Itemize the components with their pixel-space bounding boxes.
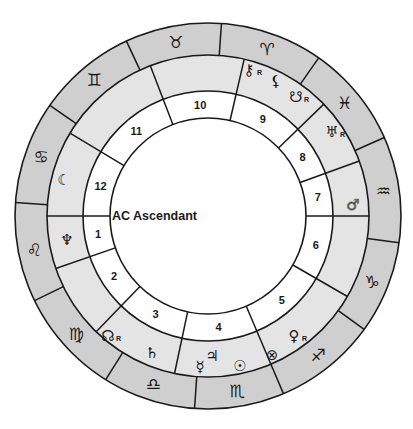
sun-placement: ☉︎ — [233, 357, 246, 375]
libra-sign-icon: ♎︎ — [146, 374, 161, 394]
scorpio-sign-icon: ♏︎ — [230, 381, 245, 401]
astrology-chart: ♉︎♊︎♋︎♌︎♍︎♎︎♏︎♐︎♑︎♒︎♓︎♈︎ 123456789101112… — [0, 0, 413, 429]
house-number-2: 2 — [111, 270, 117, 282]
retrograde-marker: R — [340, 131, 345, 138]
cancer-sign-icon: ♋︎ — [34, 147, 49, 167]
mercury-placement: ☿︎ — [195, 358, 204, 376]
part-of-fortune-icon: ⊗︎ — [266, 346, 279, 364]
moon-icon: ☾︎ — [57, 171, 70, 189]
house-number-7: 7 — [315, 191, 321, 203]
jupiter-icon: ♃︎ — [205, 347, 218, 365]
aquarius-sign-icon: ♒︎ — [376, 181, 391, 201]
jupiter-placement: ♃︎ — [205, 347, 218, 365]
mercury-icon: ☿︎ — [195, 358, 204, 376]
natal-chart-wheel: ♉︎♊︎♋︎♌︎♍︎♎︎♏︎♐︎♑︎♒︎♓︎♈︎ 123456789101112… — [0, 0, 413, 429]
moon-placement: ☾︎ — [57, 171, 70, 189]
retrograde-marker: R — [257, 69, 262, 76]
lilith-icon: ⚸︎ — [271, 72, 282, 90]
house-number-5: 5 — [279, 294, 285, 306]
house-number-3: 3 — [153, 308, 159, 320]
retrograde-marker: R — [302, 335, 307, 342]
leo-sign-icon: ♌︎ — [27, 240, 42, 260]
ascendant-marker: AC Ascendant — [112, 209, 198, 223]
neptune-icon: ♆︎ — [60, 231, 73, 249]
house-number-4: 4 — [216, 321, 223, 333]
north-node-icon: ☊︎ — [101, 327, 114, 345]
venus-icon: ♀︎ — [289, 327, 300, 345]
ascendant-label: AC Ascendant — [112, 209, 198, 223]
house-number-11: 11 — [131, 125, 143, 137]
pisces-sign-icon: ♓︎ — [337, 93, 352, 113]
gemini-sign-icon: ♊︎ — [87, 70, 102, 90]
part-of-fortune-placement: ⊗︎ — [266, 346, 279, 364]
virgo-sign-icon: ♍︎ — [69, 324, 84, 344]
lilith-placement: ⚸︎ — [271, 72, 282, 90]
house-number-6: 6 — [313, 239, 319, 251]
retrograde-marker: R — [116, 335, 121, 342]
mars-placement: ♂︎ — [346, 196, 359, 214]
house-number-8: 8 — [299, 151, 305, 163]
saturn-icon: ♄︎ — [145, 344, 158, 362]
house-number-10: 10 — [194, 99, 206, 111]
taurus-sign-icon: ♉︎ — [168, 32, 183, 52]
uranus-icon: ♅︎ — [325, 123, 338, 141]
neptune-placement: ♆︎ — [60, 231, 73, 249]
sagittarius-sign-icon: ♐︎ — [311, 345, 326, 365]
sun-icon: ☉︎ — [233, 357, 246, 375]
south-node-icon: ☋︎ — [289, 88, 302, 106]
saturn-placement: ♄︎ — [145, 344, 158, 362]
retrograde-marker: R — [304, 96, 309, 103]
chiron-icon: ⚷︎ — [244, 61, 255, 79]
house-number-9: 9 — [260, 113, 266, 125]
mars-icon: ♂︎ — [346, 196, 359, 214]
capricorn-sign-icon: ♑︎ — [364, 272, 379, 292]
aries-sign-icon: ♈︎ — [259, 39, 274, 59]
house-number-1: 1 — [95, 228, 101, 240]
house-number-12: 12 — [94, 180, 106, 192]
